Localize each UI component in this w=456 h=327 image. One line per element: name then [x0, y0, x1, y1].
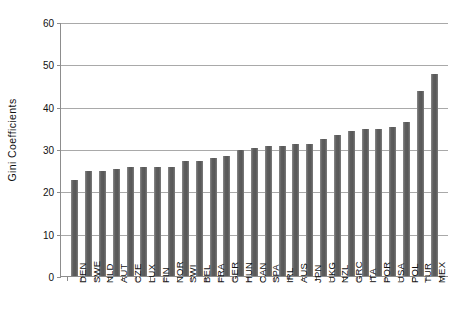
y-axis-title: Gini Coefficients — [0, 0, 24, 280]
bar — [196, 161, 203, 277]
x-label-text: JPN — [312, 264, 323, 283]
x-label-text: CAN — [257, 262, 268, 283]
x-label-text: USA — [395, 263, 406, 283]
y-axis-title-text: Gini Coefficients — [6, 98, 18, 181]
bar — [154, 167, 161, 277]
x-label-text: POR — [381, 262, 392, 283]
bar — [306, 144, 313, 277]
bar — [182, 161, 189, 277]
bar — [237, 150, 244, 277]
x-axis-category-labels: DENSWENLDAUTCZELUXFINNORSWIBELFRAGERHUNC… — [60, 282, 447, 327]
y-axis-tick-labels: 0102030405060 — [26, 23, 54, 277]
bar — [210, 158, 217, 277]
x-label-text: NOR — [174, 261, 185, 283]
plot-area — [60, 23, 448, 277]
x-label-text: CZE — [132, 263, 143, 283]
x-label-text: TUR — [422, 263, 433, 283]
x-label-text: AUT — [118, 263, 129, 283]
bar — [140, 167, 147, 277]
bar — [362, 129, 369, 277]
bar — [389, 127, 396, 277]
bar — [431, 74, 438, 277]
x-label-text: DEN — [77, 262, 88, 283]
bar — [320, 139, 327, 277]
bar — [279, 146, 286, 277]
y-tick-label: 0 — [26, 272, 54, 283]
x-label-text: SPA — [270, 264, 281, 283]
x-label-text: NLD — [104, 263, 115, 283]
bar — [127, 167, 134, 277]
bar — [265, 146, 272, 277]
x-label-text: MEX — [436, 262, 447, 283]
y-tick-label: 30 — [26, 145, 54, 156]
bars-series — [61, 23, 448, 277]
bar — [417, 91, 424, 277]
x-tick-mark — [67, 277, 68, 281]
x-label-text: LUX — [146, 264, 157, 283]
bar — [375, 129, 382, 277]
x-label-text: ITA — [367, 268, 378, 283]
bar — [403, 122, 410, 277]
x-label-text: IRL — [284, 268, 295, 283]
y-tick-label: 10 — [26, 229, 54, 240]
bar — [251, 148, 258, 277]
x-label-text: SWE — [91, 261, 102, 283]
y-tick-label: 40 — [26, 102, 54, 113]
gini-coefficients-bar-chart: Gini Coefficients 0102030405060 DENSWENL… — [0, 0, 456, 327]
x-label-text: BEL — [201, 264, 212, 283]
x-label-text: POL — [409, 263, 420, 283]
x-label-text: SWI — [187, 264, 198, 283]
x-label-text: AUS — [298, 263, 309, 283]
y-tick-label: 50 — [26, 60, 54, 71]
bar — [348, 131, 355, 277]
x-label-text: GRC — [353, 261, 364, 283]
y-tick-label: 20 — [26, 187, 54, 198]
x-label-text: NZL — [339, 264, 350, 283]
x-label-text: FIN — [160, 267, 171, 283]
bar — [113, 169, 120, 277]
x-label-text: FRA — [215, 263, 226, 283]
x-label-text: GER — [229, 262, 240, 283]
bar — [292, 144, 299, 277]
y-tick-label: 60 — [26, 18, 54, 29]
x-label-text: HUN — [243, 262, 254, 283]
bar — [223, 156, 230, 277]
bar — [334, 135, 341, 277]
x-label-text: UKG — [326, 262, 337, 283]
